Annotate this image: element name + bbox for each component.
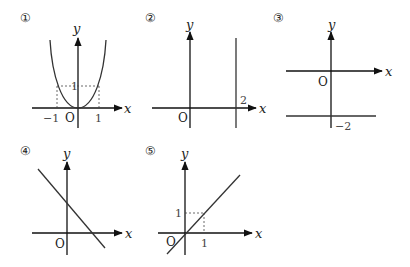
tick-y-1: 1 <box>71 80 78 93</box>
graph-2-number: ② <box>145 11 156 25</box>
y-axis-label: y <box>185 17 194 32</box>
graph-3: ③ y x −2 O <box>273 11 393 133</box>
origin-label: O <box>55 237 65 251</box>
origin-label: O <box>318 75 328 89</box>
tick-x-1: 1 <box>201 237 208 250</box>
tick-y-1: 1 <box>175 207 182 220</box>
graphs-figure: ① y x 1 −1 O 1 ② y x 2 O ③ y x −2 O ④ <box>0 0 410 267</box>
graph-5: ⑤ y x 1 1 O <box>145 144 263 255</box>
x-axis-label: x <box>124 101 132 116</box>
tick-y-neg2: −2 <box>335 120 351 133</box>
graph-4: ④ y x O <box>20 144 133 255</box>
graph-4-number: ④ <box>20 144 31 158</box>
x-axis-label: x <box>255 226 263 241</box>
tick-x-2: 2 <box>240 94 247 107</box>
origin-label: O <box>178 111 188 125</box>
graph-1-number: ① <box>20 11 31 25</box>
graph-3-number: ③ <box>273 11 284 25</box>
y-axis-label: y <box>62 146 71 161</box>
origin-label: O <box>65 111 75 125</box>
origin-label: O <box>166 235 176 249</box>
graph-1: ① y x 1 −1 O 1 <box>20 11 132 128</box>
tick-x-1: 1 <box>95 112 102 125</box>
x-axis-label: x <box>125 226 133 241</box>
x-axis-label: x <box>385 64 393 79</box>
y-axis-label: y <box>180 146 189 161</box>
graph-5-number: ⑤ <box>145 144 156 158</box>
x-axis-label: x <box>259 101 267 116</box>
y-axis-label: y <box>72 21 81 36</box>
graph-2: ② y x 2 O <box>145 11 267 128</box>
y-axis-label: y <box>327 17 336 32</box>
tick-x-neg1: −1 <box>43 112 59 125</box>
line <box>38 169 105 248</box>
